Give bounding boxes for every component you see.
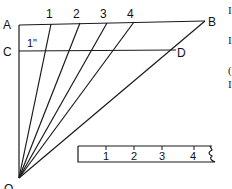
inch-label: 1" (27, 37, 37, 49)
line-AB (19, 21, 205, 25)
division-label-4: 4 (127, 7, 134, 21)
ruler-tick-1: 1 (103, 150, 109, 162)
ruler: 1 2 3 4 (78, 146, 215, 162)
diagram-canvas: A B C D O 1 2 3 4 1" 1 2 3 4 I I ( I (0, 0, 232, 189)
point-label-D: D (177, 46, 186, 60)
division-label-3: 3 (100, 7, 107, 21)
division-label-1: 1 (46, 7, 53, 21)
edge-text-2: I (228, 34, 232, 46)
edge-text-3: ( (228, 64, 232, 77)
ruler-tick-2: 2 (131, 150, 137, 162)
point-label-O: O (4, 182, 13, 189)
construction-lines (19, 21, 205, 178)
division-label-2: 2 (73, 7, 80, 21)
point-label-B: B (208, 15, 216, 29)
edge-text-4: I (228, 78, 232, 90)
point-label-A: A (3, 18, 11, 32)
ruler-tick-4: 4 (190, 150, 196, 162)
line-CD (19, 50, 176, 51)
ruler-tick-3: 3 (159, 150, 165, 162)
edge-text-1: I (228, 4, 232, 16)
point-label-C: C (3, 45, 12, 59)
